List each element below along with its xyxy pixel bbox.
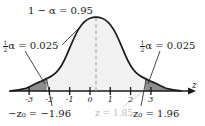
confidence-level-label: 1 − α = 0.95 <box>28 6 93 16</box>
fraction-denominator: 2 <box>3 47 8 53</box>
tick-label-neg1: -1 <box>63 96 77 104</box>
test-statistic-label: z = 1.85 <box>95 109 133 118</box>
leader-alpha-right <box>148 51 160 84</box>
tick-label-pos1: 1 <box>103 96 117 104</box>
tick-label-zero: 0 <box>83 96 97 104</box>
alpha-half-right-label: 12α = 0.025 <box>140 40 195 54</box>
one-half-fraction-right: 12 <box>140 40 145 54</box>
fraction-denominator: 2 <box>140 47 145 53</box>
critical-value-right-label: z₀ = 1.96 <box>133 109 179 119</box>
normal-distribution-figure: -3 -2 -1 0 1 2 3 z 1 − α = 0.95 12α = 0.… <box>0 0 205 126</box>
leader-alpha-left <box>25 51 45 84</box>
alpha-half-left-text: α = 0.025 <box>8 40 58 51</box>
tick-label-pos2: 2 <box>124 96 138 104</box>
axis-label-z: z <box>192 81 197 90</box>
critical-value-left-label: −z₀ = −1.96 <box>8 109 71 119</box>
one-half-fraction-left: 12 <box>3 40 8 54</box>
center-region-fill <box>47 17 145 91</box>
tick-label-neg2: -2 <box>42 96 56 104</box>
alpha-half-right-text: α = 0.025 <box>145 40 195 51</box>
tick-label-neg3: -3 <box>22 96 36 104</box>
tick-label-pos3: 3 <box>144 96 158 104</box>
alpha-half-left-label: 12α = 0.025 <box>3 40 58 54</box>
